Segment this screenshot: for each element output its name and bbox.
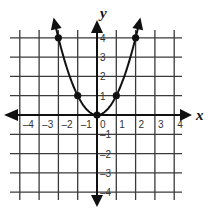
y-tick-label: –4: [100, 187, 112, 198]
x-tick-label: –1: [81, 119, 93, 130]
data-point: [93, 111, 100, 118]
x-tick-label: 4: [177, 119, 183, 130]
x-tick-label: –4: [23, 119, 35, 130]
x-tick-label: –2: [61, 119, 73, 130]
x-axis-label: x: [195, 107, 204, 123]
arrow-up-icon: [91, 20, 103, 33]
x-tick-label: 1: [119, 119, 125, 130]
y-tick-label: 3: [100, 52, 106, 63]
data-point: [113, 92, 120, 99]
y-tick-label: 4: [100, 33, 106, 44]
x-tick-label: –3: [42, 119, 54, 130]
y-tick-label: –2: [100, 149, 112, 160]
data-point: [132, 34, 139, 41]
arrow-left-icon: [4, 109, 18, 121]
x-tick-label: 3: [158, 119, 164, 130]
y-tick-label: 2: [100, 71, 106, 82]
curve-arrow-icon: [132, 17, 143, 30]
curve-arrow-icon: [51, 17, 62, 30]
parabola-graph: –4–3–2–101234–4–3–2–11234 x y: [0, 0, 211, 209]
data-point: [55, 34, 62, 41]
y-tick-label: 1: [100, 91, 106, 102]
y-tick-label: –3: [100, 168, 112, 179]
x-tick-label: 2: [139, 119, 145, 130]
data-point: [74, 92, 81, 99]
y-tick-label: –1: [100, 129, 112, 140]
y-axis-label: y: [98, 5, 107, 21]
